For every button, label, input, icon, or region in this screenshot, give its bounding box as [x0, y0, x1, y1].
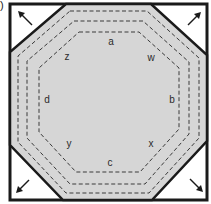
- label-y: y: [67, 139, 72, 149]
- label-c: c: [108, 158, 113, 168]
- label-a: a: [108, 37, 114, 47]
- label-x: x: [149, 139, 154, 149]
- label-d: d: [44, 95, 50, 105]
- octagon-shape: [10, 4, 207, 200]
- diagram-canvas: [0, 0, 211, 204]
- label-w: w: [147, 53, 154, 63]
- label-b: b: [169, 95, 175, 105]
- label-z: z: [65, 52, 70, 62]
- octagon-diagram: b) a w b x c y d z: [0, 0, 211, 204]
- panel-label: b): [0, 0, 4, 11]
